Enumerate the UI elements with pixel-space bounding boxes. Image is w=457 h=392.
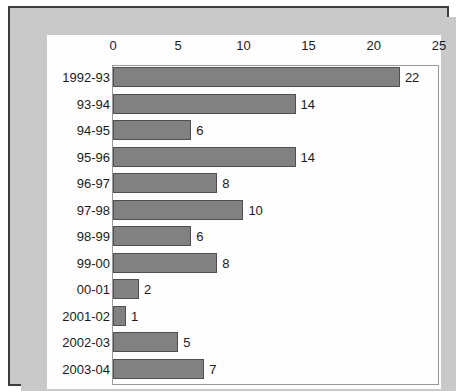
- bar-row: 97-9810: [47, 200, 441, 220]
- category-label: 2003-04: [62, 361, 110, 376]
- bar-row: 00-012: [47, 279, 441, 299]
- bar: [113, 359, 204, 379]
- bar-value-label: 6: [196, 229, 203, 244]
- category-label: 95-96: [77, 149, 110, 164]
- bar-row: 2001-021: [47, 306, 441, 326]
- bar: [113, 332, 178, 352]
- bar-row: 99-008: [47, 253, 441, 273]
- bar-row: 2002-035: [47, 332, 441, 352]
- bar-value-label: 8: [222, 176, 229, 191]
- category-label: 98-99: [77, 229, 110, 244]
- bar: [113, 67, 400, 87]
- category-label: 96-97: [77, 176, 110, 191]
- category-label: 2002-03: [62, 335, 110, 350]
- bar-value-label: 14: [301, 96, 315, 111]
- category-label: 93-94: [77, 96, 110, 111]
- category-label: 99-00: [77, 255, 110, 270]
- bar-value-label: 2: [144, 282, 151, 297]
- bar: [113, 253, 217, 273]
- bar-value-label: 1: [131, 308, 138, 323]
- bar-row: 2003-047: [47, 359, 441, 379]
- figure-outer-border: 0510152025 1992-932293-941494-95695-9614…: [8, 6, 449, 386]
- category-label: 1992-93: [62, 70, 110, 85]
- bar: [113, 120, 191, 140]
- bar-row: 98-996: [47, 226, 441, 246]
- category-label: 2001-02: [62, 308, 110, 323]
- category-label: 00-01: [77, 282, 110, 297]
- bar-value-label: 22: [405, 70, 419, 85]
- bar-row: 95-9614: [47, 147, 441, 167]
- bar-value-label: 7: [209, 361, 216, 376]
- bar-row: 96-978: [47, 173, 441, 193]
- bar: [113, 94, 296, 114]
- bar-value-label: 10: [248, 202, 262, 217]
- figure-gray-mat: 0510152025 1992-932293-941494-95695-9614…: [21, 17, 456, 391]
- bar: [113, 147, 296, 167]
- bar-chart-figure: 0510152025 1992-932293-941494-95695-9614…: [0, 0, 457, 392]
- bar-row: 1992-9322: [47, 67, 441, 87]
- category-label: 94-95: [77, 123, 110, 138]
- bar-rows: 1992-932293-941494-95695-961496-97897-98…: [47, 35, 441, 389]
- bar-value-label: 5: [183, 335, 190, 350]
- bar: [113, 173, 217, 193]
- bar-value-label: 6: [196, 123, 203, 138]
- bar: [113, 200, 243, 220]
- bar: [113, 226, 191, 246]
- category-label: 97-98: [77, 202, 110, 217]
- bar: [113, 279, 139, 299]
- bar-row: 94-956: [47, 120, 441, 140]
- bar-row: 93-9414: [47, 94, 441, 114]
- chart-canvas: 0510152025 1992-932293-941494-95695-9614…: [47, 35, 441, 389]
- bar-value-label: 8: [222, 255, 229, 270]
- bar-value-label: 14: [301, 149, 315, 164]
- bar: [113, 306, 126, 326]
